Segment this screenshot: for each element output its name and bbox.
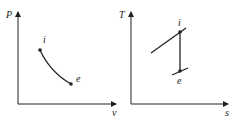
- ts-point-i: [178, 30, 182, 34]
- ts-x-axis-label: s: [225, 107, 229, 118]
- ts-point-i-label: i: [178, 17, 181, 28]
- diagram-canvas: P v i e T s i e: [0, 0, 237, 122]
- pv-y-axis-label: P: [5, 9, 12, 20]
- pv-diagram: P v i e: [5, 9, 117, 118]
- ts-point-e: [178, 69, 182, 73]
- pv-x-axis-label: v: [112, 107, 117, 118]
- pv-point-e: [69, 82, 73, 86]
- pv-point-i: [38, 48, 42, 52]
- ts-point-e-label: e: [177, 75, 182, 86]
- ts-diagram: T s i e: [119, 9, 229, 118]
- pv-point-i-label: i: [43, 34, 46, 45]
- ts-y-axis-label: T: [119, 9, 126, 20]
- pv-point-e-label: e: [76, 73, 81, 84]
- pv-process-curve: [40, 50, 71, 84]
